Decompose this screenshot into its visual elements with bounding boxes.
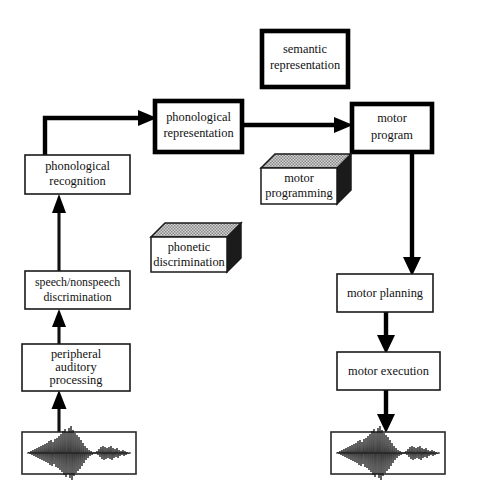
phonological-representation-label-line2: representation (163, 126, 233, 140)
edge-motor-planning-to-motor-execution (377, 312, 395, 354)
node-motor-program[interactable]: motor program (352, 104, 432, 152)
edge-waveform-to-peripheral (52, 390, 67, 432)
peripheral-auditory-processing-label-line1: peripheral (51, 347, 102, 361)
motor-programming-label-line1: motor (284, 171, 314, 185)
phonetic-discrimination-label-line1: phonetic (168, 240, 211, 254)
motor-planning-label: motor planning (347, 286, 423, 300)
motor-program-label-line1: motor (377, 111, 407, 125)
semantic-representation-label-line1: semantic (283, 42, 328, 56)
node-motor-planning[interactable]: motor planning (337, 274, 433, 312)
phonological-representation-label-line1: phonological (166, 110, 231, 124)
node-semantic-representation[interactable]: semantic representation (262, 31, 348, 87)
flow-diagram: semantic representation phonological rep… (0, 0, 477, 501)
node-motor-programming[interactable]: motor programming (261, 154, 351, 204)
phonological-recognition-label-line2: recognition (49, 174, 105, 188)
node-input-waveform[interactable] (22, 426, 136, 480)
node-phonological-representation[interactable]: phonological representation (155, 101, 242, 152)
diagram-canvas: semantic representation phonological rep… (0, 0, 477, 501)
phonetic-discrimination-label-line2: discrimination (153, 255, 225, 269)
node-speech-nonspeech-discrimination[interactable]: speech/nonspeech discrimination (25, 271, 130, 309)
edge-peripheral-to-speech-nonspeech (52, 309, 66, 344)
node-phonetic-discrimination[interactable]: phonetic discrimination (151, 223, 241, 272)
motor-execution-label: motor execution (348, 364, 429, 378)
peripheral-auditory-processing-label-line2: auditory (55, 360, 97, 374)
edge-phonological-representation-to-motor-program (242, 117, 353, 133)
node-peripheral-auditory-processing[interactable]: peripheral auditory processing (22, 344, 130, 391)
motor-programming-label-line2: programming (265, 186, 332, 200)
node-output-waveform[interactable] (331, 426, 445, 480)
edge-phonological-recognition-to-phonological-representation (45, 110, 157, 157)
node-phonological-recognition[interactable]: phonological recognition (25, 155, 130, 194)
motor-program-label-line2: program (371, 128, 413, 142)
peripheral-auditory-processing-label-line3: processing (50, 373, 103, 387)
speech-nonspeech-discrimination-label-line1: speech/nonspeech (35, 275, 120, 289)
semantic-representation-label-line2: representation (270, 58, 340, 72)
speech-nonspeech-discrimination-label-line2: discrimination (43, 290, 111, 304)
edge-motor-program-to-motor-planning (403, 150, 421, 276)
edge-speech-nonspeech-to-phonological-recognition (52, 194, 66, 271)
phonological-recognition-label-line1: phonological (45, 159, 110, 173)
node-motor-execution[interactable]: motor execution (337, 352, 440, 390)
